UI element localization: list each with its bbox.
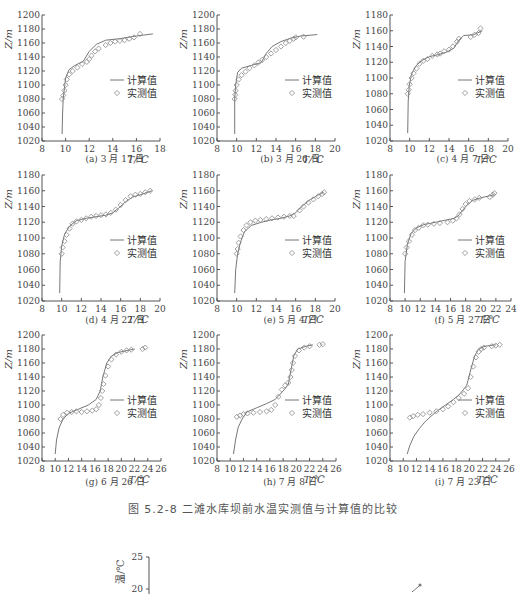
measured-diamond-icon [108, 40, 113, 45]
y-tick-label: 1160 [192, 38, 215, 48]
x-tick-label: 16 [89, 464, 101, 474]
measured-diamond-icon [75, 65, 80, 70]
y-tick-label: 1180 [17, 344, 40, 354]
x-tick-label: 18 [450, 464, 462, 474]
chart-svg-i: 1020104010601080110011201140116011801200… [348, 320, 523, 480]
chart-panel-d: 1020104010601080110011201140116011808101… [0, 160, 175, 320]
partial-bottom-chart: 25 20 温/℃ [0, 540, 526, 594]
measured-diamond-icon [269, 407, 274, 412]
measured-diamond-icon [244, 223, 249, 228]
legend-diamond-icon [114, 410, 119, 415]
y-axis-label: Z/m [351, 29, 362, 50]
y-tick-label: 1100 [192, 400, 215, 410]
x-tick-label: 10 [397, 464, 409, 474]
x-tick-label: 20 [116, 464, 128, 474]
y-tick-label: 1100 [192, 233, 215, 243]
legend-computed-label: 计算值 [475, 394, 505, 406]
measured-diamond-icon [251, 410, 256, 415]
y-tick-label: 1180 [365, 170, 388, 180]
y-tick-label: 1120 [365, 386, 388, 396]
x-tick-label: 20 [464, 464, 476, 474]
chart-svg-h: 1020104010601080110011201140116011801200… [175, 320, 350, 480]
computed-line [234, 345, 313, 454]
x-tick-label: 8 [387, 144, 393, 154]
legend-measured-label: 实测值 [302, 87, 332, 99]
chart-svg-d: 1020104010601080110011201140116011808101… [0, 160, 175, 320]
chart-panel-b: 1020104010601080110011201140116011801200… [175, 0, 350, 160]
x-tick-label: 8 [39, 304, 45, 314]
x-tick-label: 24 [490, 464, 502, 474]
panel-caption-i: (i) 7 月 23 日 [408, 475, 518, 488]
y-tick-label: 1200 [17, 330, 40, 340]
measured-diamond-icon [98, 213, 103, 218]
y-tick-label: 1060 [192, 265, 215, 275]
measured-diamond-icon [278, 44, 283, 49]
measured-diamond-icon [63, 82, 68, 87]
y-tick-label: 1180 [365, 344, 388, 354]
y-tick-label: 1100 [365, 233, 388, 243]
y-tick-label: 1040 [365, 280, 388, 290]
y-tick-label: 1180 [365, 10, 388, 20]
legend-computed-label: 计算值 [127, 234, 157, 246]
measured-diamond-icon [461, 391, 466, 396]
x-tick-label: 12 [411, 464, 422, 474]
y-tick-label: 1120 [17, 386, 40, 396]
y-tick-label: 1180 [17, 24, 40, 34]
chart-panel-f: 1020104010601080110011201140116011808101… [348, 160, 523, 320]
chart-svg-e: 1020104010601080110011201140116011808101… [175, 160, 350, 320]
panel-caption-h: (h) 7 月 8 日 [235, 475, 345, 488]
x-tick-label: 12 [238, 464, 249, 474]
x-tick-label: 26 [330, 464, 342, 474]
chart-svg-f: 1020104010601080110011201140116011808101… [348, 160, 523, 320]
computed-line [55, 349, 134, 454]
y-tick-label: 1100 [365, 73, 388, 83]
x-tick-label: 18 [102, 464, 114, 474]
y-tick-label: 1200 [365, 330, 388, 340]
y-tick-label: 1080 [17, 94, 40, 104]
x-tick-label: 24 [142, 464, 154, 474]
y-tick-label: 1020 [17, 136, 40, 146]
legend-measured-label: 实测值 [127, 87, 157, 99]
x-tick-label: 14 [76, 464, 88, 474]
x-tick-label: 22 [304, 464, 315, 474]
chart-svg-a: 1020104010601080110011201140116011801200… [0, 0, 175, 160]
y-axis-label: Z/m [178, 349, 189, 370]
x-tick-label: 12 [63, 464, 74, 474]
y-tick-label: 1120 [365, 217, 388, 227]
x-tick-label: 14 [424, 464, 436, 474]
y-axis-label: Z/m [178, 189, 189, 210]
measured-diamond-icon [273, 402, 278, 407]
legend-diamond-icon [114, 90, 119, 95]
measured-diamond-icon [268, 51, 273, 56]
measured-diamond-icon [60, 245, 65, 250]
y-axis-label: Z/m [351, 189, 362, 210]
measured-diamond-icon [239, 73, 244, 78]
measured-diamond-icon [79, 409, 84, 414]
y-tick-label: 1080 [365, 249, 388, 259]
chart-panel-a: 1020104010601080110011201140116011801200… [0, 0, 175, 160]
legend-diamond-icon [462, 410, 467, 415]
x-tick-label: 8 [214, 304, 220, 314]
partial-y-label: 温/℃ [115, 559, 126, 584]
x-tick-label: 8 [387, 304, 393, 314]
y-tick-label: 1180 [192, 24, 215, 34]
x-tick-label: 10 [224, 464, 236, 474]
legend-measured-label: 实测值 [127, 247, 157, 259]
partial-chart-svg: 25 20 温/℃ [0, 540, 526, 594]
y-tick-label: 1200 [192, 330, 215, 340]
legend-diamond-icon [114, 250, 119, 255]
measured-diamond-icon [257, 409, 262, 414]
y-tick-label: 1040 [17, 280, 40, 290]
legend-computed-label: 计算值 [127, 74, 157, 86]
measured-diamond-icon [273, 47, 278, 52]
legend-computed-label: 计算值 [302, 394, 332, 406]
y-tick-label: 1080 [17, 414, 40, 424]
x-tick-label: 26 [155, 464, 167, 474]
y-tick-label: 1020 [192, 296, 215, 306]
legend-computed-label: 计算值 [475, 234, 505, 246]
y-tick-label: 1060 [365, 428, 388, 438]
legend-diamond-icon [289, 250, 294, 255]
y-tick-label: 1060 [17, 265, 40, 275]
chart-panel-e: 1020104010601080110011201140116011808101… [175, 160, 350, 320]
y-tick-label: 1120 [192, 66, 215, 76]
